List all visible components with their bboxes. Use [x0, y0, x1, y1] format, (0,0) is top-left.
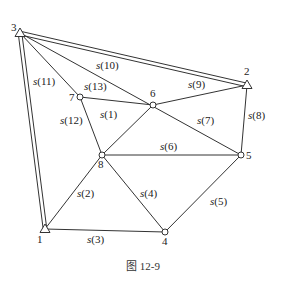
point-label-2: 2 — [244, 65, 250, 77]
point-label-3: 3 — [11, 21, 17, 33]
edge-label: s(8) — [248, 109, 265, 122]
edge-4-5 — [165, 155, 241, 232]
circle-icon — [77, 94, 83, 100]
edge-1-4 — [45, 229, 165, 232]
point-label-8: 8 — [98, 158, 104, 170]
edge-label: s(1) — [100, 108, 117, 121]
edge-3-1 — [18, 33, 43, 229]
edge-label: s(2) — [77, 187, 94, 200]
edge-label: s(9) — [188, 78, 205, 91]
edge-7-6 — [80, 97, 153, 105]
edge-7-8 — [80, 97, 102, 155]
point-label-6: 6 — [150, 87, 156, 99]
edge-label: s(6) — [160, 140, 177, 153]
circle-icon — [238, 152, 244, 158]
edge-label: s(4) — [140, 187, 157, 200]
edge-label: s(13) — [84, 80, 107, 93]
point-label-1: 1 — [37, 233, 43, 245]
triangle-icon — [242, 80, 252, 89]
labels-layer: 12345678s(1)s(2)s(3)s(4)s(5)s(6)s(7)s(8)… — [11, 21, 265, 247]
circle-icon — [150, 102, 156, 108]
edge-3-1 — [22, 33, 47, 229]
edge-label: s(11) — [33, 75, 56, 88]
figure-caption: 图 12-9 — [126, 260, 160, 272]
edge-3-5 — [20, 33, 241, 155]
edge-label: s(7) — [197, 114, 214, 127]
point-label-7: 7 — [69, 91, 75, 103]
edge-label: s(3) — [87, 233, 104, 246]
point-label-4: 4 — [162, 235, 168, 247]
edge-label: s(5) — [210, 195, 227, 208]
point-label-5: 5 — [246, 149, 252, 161]
edge-label: s(12) — [60, 114, 83, 127]
edge-5-2 — [241, 85, 247, 155]
edge-label: s(10) — [96, 59, 119, 72]
network-diagram: 12345678s(1)s(2)s(3)s(4)s(5)s(6)s(7)s(8)… — [0, 0, 286, 283]
